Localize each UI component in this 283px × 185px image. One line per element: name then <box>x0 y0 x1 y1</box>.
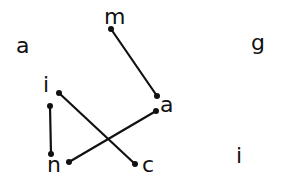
letter-m: m <box>104 4 125 29</box>
diagram-canvas: magianci <box>0 0 283 185</box>
letter-n: n <box>47 152 61 177</box>
label-layer: magianci <box>0 0 283 185</box>
letter-a_left: a <box>16 33 29 58</box>
letter-c: c <box>142 152 154 177</box>
letter-i_left: i <box>43 72 49 97</box>
letter-g: g <box>251 30 265 55</box>
letter-a_mid: a <box>160 92 173 117</box>
letter-i_right: i <box>236 143 242 168</box>
